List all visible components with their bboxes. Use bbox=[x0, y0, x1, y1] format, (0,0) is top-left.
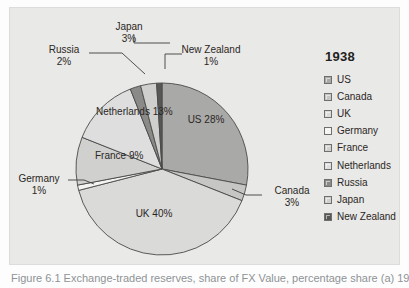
pie-label-france: France 9% bbox=[95, 150, 143, 162]
pie-callout-japan: Japan 3% bbox=[103, 21, 155, 44]
pie-slice-us[interactable] bbox=[162, 83, 248, 185]
legend-swatch-icon bbox=[324, 162, 332, 170]
legend-item-japan[interactable]: Japan bbox=[324, 191, 400, 208]
legend-rows: USCanadaUKGermanyFranceNetherlandsRussia… bbox=[314, 71, 400, 226]
pie-callout-new-zealand: New Zealand 1% bbox=[170, 44, 252, 67]
pie-callout-canada: Canada 3% bbox=[265, 185, 319, 208]
figure-container: US 28% UK 40% Netherlands 13% France 9% … bbox=[0, 0, 409, 288]
chart-panel: US 28% UK 40% Netherlands 13% France 9% … bbox=[9, 7, 400, 265]
legend-item-canada[interactable]: Canada bbox=[324, 88, 400, 105]
legend-item-netherlands[interactable]: Netherlands bbox=[324, 157, 400, 174]
pie-callout-russia: Russia 2% bbox=[38, 44, 90, 67]
legend-swatch-icon bbox=[324, 76, 332, 84]
legend-item-russia[interactable]: Russia bbox=[324, 174, 400, 191]
legend-swatch-icon bbox=[324, 179, 332, 187]
legend-item-germany[interactable]: Germany bbox=[324, 123, 400, 140]
leader-line bbox=[122, 53, 145, 74]
legend: 1938 USCanadaUKGermanyFranceNetherlandsR… bbox=[314, 49, 400, 226]
legend-item-label: UK bbox=[337, 109, 351, 119]
legend-item-label: US bbox=[337, 75, 351, 85]
legend-swatch-icon bbox=[324, 144, 332, 152]
legend-swatch-icon bbox=[324, 127, 332, 135]
legend-swatch-icon bbox=[324, 93, 332, 101]
legend-item-label: Germany bbox=[337, 126, 378, 136]
legend-item-france[interactable]: France bbox=[324, 140, 400, 157]
figure-caption: Figure 6.1 Exchange-traded reserves, sha… bbox=[11, 272, 409, 285]
legend-title: 1938 bbox=[325, 49, 400, 64]
legend-item-label: France bbox=[337, 143, 368, 153]
pie-label-uk: UK 40% bbox=[134, 208, 174, 220]
legend-item-label: New Zealand bbox=[337, 212, 396, 222]
legend-swatch-icon bbox=[324, 196, 332, 204]
legend-item-label: Netherlands bbox=[337, 161, 391, 171]
legend-swatch-icon bbox=[324, 110, 332, 118]
pie-callout-germany: Germany 1% bbox=[9, 173, 70, 196]
pie-label-netherlands: Netherlands 13% bbox=[96, 106, 168, 118]
legend-item-label: Russia bbox=[337, 178, 368, 188]
legend-item-uk[interactable]: UK bbox=[324, 105, 400, 122]
legend-item-us[interactable]: US bbox=[324, 71, 400, 88]
legend-item-label: Japan bbox=[337, 195, 364, 205]
pie-label-us: US 28% bbox=[186, 114, 226, 126]
legend-swatch-icon bbox=[324, 213, 332, 221]
legend-item-new-zealand[interactable]: New Zealand bbox=[324, 209, 400, 226]
legend-item-label: Canada bbox=[337, 92, 372, 102]
